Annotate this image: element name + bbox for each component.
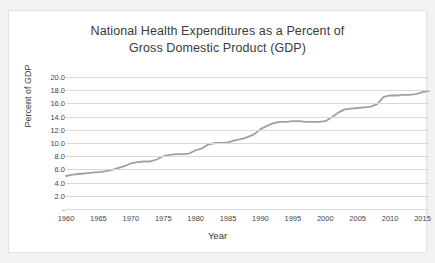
y-axis-tick-label: 14.0 [43,112,65,121]
gridline [66,196,429,197]
screenshot-root: National Health Expenditures as a Percen… [0,0,435,263]
gridline [66,169,429,170]
x-axis-tick-label: 1985 [220,214,237,223]
x-axis-tick-label: 2005 [349,214,366,223]
chart-title-line-1: National Health Expenditures as a Percen… [9,23,426,40]
gridline [66,183,429,184]
x-axis-tick-label: 2015 [414,214,431,223]
chart-title-line-2: Gross Domestic Product (GDP) [9,40,426,57]
x-axis-tick-labels: 1960196519701975198019851990199520002005… [66,214,429,228]
chart-card: National Health Expenditures as a Percen… [8,10,427,253]
y-axis-tick-label: 6.0 [43,165,65,174]
x-axis-tick-label: 1965 [90,214,107,223]
y-axis-tick-label: 4.0 [43,178,65,187]
x-axis-tick-label: 1980 [187,214,204,223]
x-axis-title: Year [9,230,426,241]
y-axis-tick-labels: 20.018.016.014.012.010.08.06.04.02.0- [43,71,65,215]
y-axis-tick-label: - [43,205,65,214]
gridline [66,143,429,144]
x-axis-tick-label: 1975 [155,214,172,223]
x-axis-tick-label: 2000 [317,214,334,223]
gridline [66,156,429,157]
y-axis-tick-label: 20.0 [43,73,65,82]
y-axis-tick-label: 2.0 [43,191,65,200]
chart-title: National Health Expenditures as a Percen… [9,23,426,57]
y-axis-tick-label: 18.0 [43,86,65,95]
y-axis-tick-label: 16.0 [43,99,65,108]
y-axis-tick-label: 8.0 [43,152,65,161]
x-axis-tick-label: 2010 [382,214,399,223]
x-axis-tick-label: 1970 [122,214,139,223]
gridline [66,77,429,78]
gridline [66,130,429,131]
plot-area [66,77,429,209]
gridline [66,117,429,118]
gridline [66,90,429,91]
x-axis-tick-label: 1960 [58,214,75,223]
x-axis-tick-label: 1995 [285,214,302,223]
y-axis-title: Percent of GDP [23,46,33,146]
y-axis-tick-label: 10.0 [43,139,65,148]
gridline [66,209,429,210]
y-axis-tick-label: 12.0 [43,125,65,134]
x-axis-tick-label: 1990 [252,214,269,223]
gridline [66,103,429,104]
